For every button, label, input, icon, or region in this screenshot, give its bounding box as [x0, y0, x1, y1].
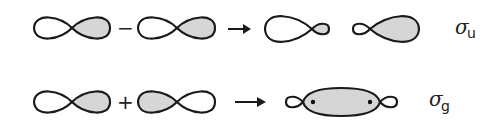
arrow-icon [228, 24, 251, 34]
large-shaded-lobe [370, 16, 419, 42]
row-sigma-g: + σ g [34, 87, 450, 116]
nucleus-dot [311, 100, 315, 104]
mo-diagram: − σ u + [0, 0, 500, 128]
sigma-g-result [286, 88, 397, 116]
white-lobe [34, 91, 72, 112]
sigma-subscript: u [467, 25, 476, 41]
shaded-lobe [72, 91, 110, 112]
p-orbital-left-2 [34, 91, 110, 112]
small-white-lobe [353, 24, 370, 35]
p-orbital-right-2 [138, 91, 215, 112]
nucleus-dot [368, 100, 372, 104]
shaded-lobe [138, 91, 177, 112]
left-small-lobe [286, 97, 303, 108]
right-small-lobe [380, 97, 397, 108]
sigma-u-label: σ u [455, 15, 476, 41]
sigma-u-result-b [353, 16, 419, 42]
p-orbital-left-1 [34, 17, 110, 38]
sigma-subscript: g [441, 98, 450, 114]
minus-operator: − [117, 16, 134, 40]
arrow-icon [235, 97, 266, 107]
white-lobe [138, 17, 177, 38]
row-sigma-u: − σ u [34, 15, 476, 42]
shaded-lobe [72, 17, 110, 38]
white-lobe [177, 91, 215, 112]
large-white-lobe [265, 16, 312, 42]
sigma-g-label: σ g [429, 87, 450, 114]
white-lobe [34, 17, 72, 38]
shaded-lobe [177, 17, 215, 38]
p-orbital-right-1 [138, 17, 215, 38]
sigma-u-result-a [265, 16, 329, 42]
small-shaded-lobe [312, 24, 329, 35]
plus-operator: + [117, 90, 134, 114]
